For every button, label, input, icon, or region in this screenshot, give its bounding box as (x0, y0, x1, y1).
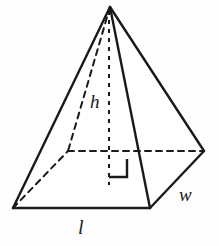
width-label: w (179, 185, 192, 204)
pyramid-figure: h l w (0, 0, 219, 246)
height-label: h (90, 92, 100, 111)
pyramid-drawing (0, 0, 219, 246)
length-label: l (78, 217, 84, 237)
